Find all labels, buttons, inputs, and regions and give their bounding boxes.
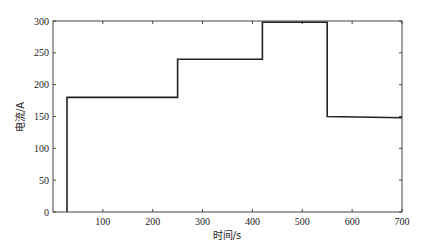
y-axis-label: 电流/A <box>14 102 26 132</box>
chart-svg: 050100150200250300 100200300400500600700… <box>0 0 426 251</box>
y-tick-label: 200 <box>34 79 49 90</box>
y-tick-label: 150 <box>34 111 49 122</box>
x-axis: 100200300400500600700 <box>95 21 409 227</box>
x-tick-label: 200 <box>145 216 160 227</box>
x-tick-label: 600 <box>345 216 360 227</box>
y-tick-label: 300 <box>34 16 49 27</box>
x-axis-label: 时间/s <box>213 229 242 241</box>
y-tick-label: 0 <box>44 207 49 218</box>
x-tick-label: 400 <box>245 216 260 227</box>
data-series-current <box>67 22 402 212</box>
y-tick-label: 100 <box>34 143 49 154</box>
y-tick-label: 250 <box>34 47 49 58</box>
x-tick-label: 300 <box>195 216 210 227</box>
y-tick-label: 50 <box>39 175 49 186</box>
x-tick-label: 500 <box>295 216 310 227</box>
x-tick-label: 700 <box>395 216 410 227</box>
x-tick-label: 100 <box>95 216 110 227</box>
